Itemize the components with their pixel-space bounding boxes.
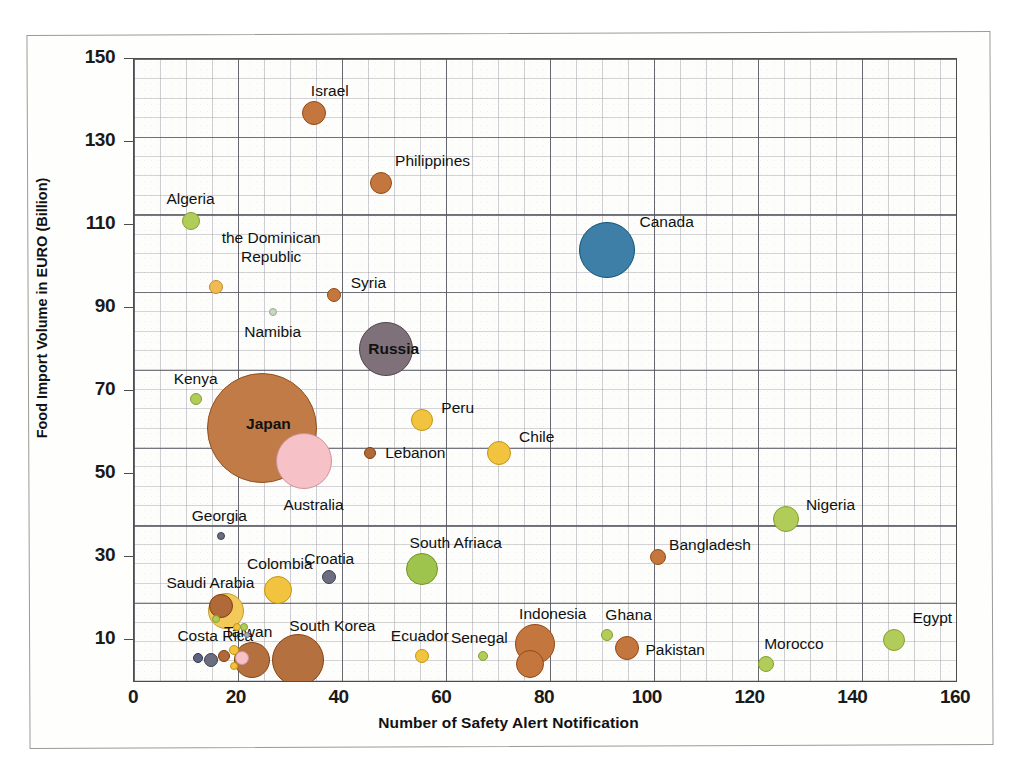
bubble-label: Bangladesh: [669, 536, 751, 554]
bubble-label: Indonesia: [519, 605, 586, 623]
y-tick-label: 30: [55, 544, 115, 566]
y-tick-mark: [124, 141, 133, 142]
bubble-colombia[interactable]: [264, 576, 292, 604]
bubble-label: Croatia: [304, 550, 354, 568]
bubble-label: Israel: [311, 82, 349, 100]
major-gridlines: [134, 59, 956, 681]
y-tick-mark: [124, 556, 133, 557]
bubble-hong-kong[interactable]: [516, 650, 544, 678]
bubble-label: Egypt: [913, 609, 953, 627]
x-tick-label: 80: [514, 686, 574, 708]
bubble-label: Lebanon: [385, 444, 445, 462]
bubble-unlabeled[interactable]: [218, 650, 230, 662]
bubble-label: Hong Kong: [531, 677, 609, 682]
y-tick-mark: [124, 639, 133, 640]
bubble-ghana[interactable]: [601, 629, 613, 641]
y-tick-mark: [124, 390, 133, 391]
bubble-label: Australia: [283, 496, 343, 514]
y-tick-label: 70: [55, 378, 115, 400]
bubble-nigeria[interactable]: [773, 506, 799, 532]
y-tick-label: 10: [55, 627, 115, 649]
y-tick-label: 130: [55, 129, 115, 151]
bubble-label: Canada: [639, 213, 693, 231]
bubble-bangladesh[interactable]: [650, 549, 666, 565]
y-axis-title: Food Import Volume in EURO (Billion): [34, 98, 50, 518]
bubble-label: Morocco: [764, 635, 823, 653]
bubble-label: Ghana: [605, 606, 652, 624]
x-tick-label: 160: [925, 686, 985, 708]
y-tick-label: 50: [55, 461, 115, 483]
x-tick-label: 40: [309, 686, 369, 708]
bubble-georgia[interactable]: [217, 532, 225, 540]
bubble-label: South Afriaca: [410, 534, 502, 552]
bubble-label: Ecuador: [391, 627, 449, 645]
y-tick-label: 150: [55, 46, 115, 68]
bubble-label: Japan: [246, 415, 291, 433]
bubble-unlabeled[interactable]: [240, 623, 248, 631]
bubble-unlabeled[interactable]: [193, 653, 203, 663]
bubble-unlabeled[interactable]: [212, 615, 220, 623]
bubble-chart: JapanCanadaAustraliaRussiaSouth KoreaInd…: [0, 0, 1017, 778]
bubble-namibia[interactable]: [269, 308, 277, 316]
bubble-senegal[interactable]: [478, 651, 488, 661]
bubble-philippines[interactable]: [370, 172, 392, 194]
bubble-label: Colombia: [247, 555, 312, 573]
bubble-egypt[interactable]: [883, 629, 905, 651]
bubble-lebanon[interactable]: [364, 447, 376, 459]
bubble-label: Russia: [368, 340, 419, 358]
bubble-south-korea[interactable]: [272, 634, 324, 682]
bubble-morocco[interactable]: [758, 656, 774, 672]
bubble-label: the Dominican Republic: [196, 228, 346, 267]
x-axis-title: Number of Safety Alert Notification: [0, 714, 1017, 732]
bubble-label: Namibia: [244, 323, 301, 341]
x-tick-label: 20: [206, 686, 266, 708]
bubble-the-dominican-republic[interactable]: [209, 280, 223, 294]
bubble-south-afriaca[interactable]: [406, 553, 438, 585]
bubble-label: Peru: [441, 399, 474, 417]
y-tick-mark: [124, 473, 133, 474]
bubble-israel[interactable]: [302, 101, 326, 125]
bubble-label: Saudi Arabia: [167, 574, 255, 592]
y-tick-label: 90: [55, 295, 115, 317]
bubble-kenya[interactable]: [190, 393, 202, 405]
bubble-ecuador[interactable]: [415, 649, 429, 663]
bubble-label: Senegal: [451, 629, 508, 647]
plot-area: JapanCanadaAustraliaRussiaSouth KoreaInd…: [133, 58, 957, 682]
x-tick-label: 0: [103, 686, 163, 708]
bubble-label: Georgia: [192, 507, 247, 525]
bubble-canada[interactable]: [579, 222, 635, 278]
bubble-label: Algeria: [166, 190, 214, 208]
bubble-croatia[interactable]: [322, 570, 336, 584]
y-tick-label: 110: [55, 212, 115, 234]
y-tick-mark: [124, 58, 133, 59]
bubble-syria[interactable]: [327, 288, 341, 302]
y-tick-mark: [124, 224, 133, 225]
bubble-label: South Korea: [289, 617, 375, 635]
y-tick-mark: [124, 307, 133, 308]
bubble-australia[interactable]: [276, 433, 332, 489]
bubble-label: Kenya: [174, 370, 218, 388]
bubble-label: Nigeria: [806, 496, 855, 514]
x-tick-label: 120: [720, 686, 780, 708]
x-tick-label: 140: [822, 686, 882, 708]
bubble-label: Syria: [351, 274, 386, 292]
bubble-unlabeled[interactable]: [235, 651, 249, 665]
bubble-peru[interactable]: [411, 409, 433, 431]
bubble-label: Chile: [519, 428, 554, 446]
bubble-chile[interactable]: [487, 441, 511, 465]
x-tick-label: 100: [617, 686, 677, 708]
x-tick-label: 60: [411, 686, 471, 708]
bubble-unlabeled[interactable]: [204, 653, 218, 667]
bubble-pakistan[interactable]: [615, 636, 639, 660]
bubble-label: Philippines: [395, 152, 470, 170]
bubble-label: Pakistan: [645, 641, 704, 659]
bubble-unlabeled[interactable]: [244, 632, 250, 638]
